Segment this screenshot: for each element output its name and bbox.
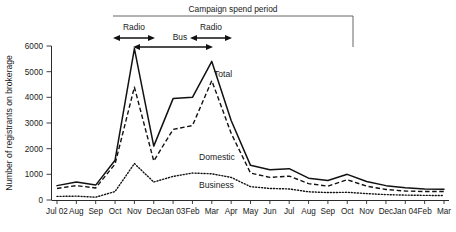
radio-1-arrow-head-right: [148, 35, 155, 41]
x-tick-label-2: Sep: [88, 207, 103, 216]
x-axis-ticks: [57, 200, 444, 204]
bus-arrow: [133, 44, 213, 50]
campaign-spend-annotation: Campaign spend period Radio Bus Radio: [113, 4, 353, 50]
series-label-business: Business: [199, 180, 234, 190]
x-tick-label-20: Mar: [437, 207, 451, 216]
bus-arrow-head-right: [206, 44, 213, 50]
series-line-business: [57, 164, 444, 198]
y-tick-label-5000: 5000: [25, 68, 44, 77]
x-axis: Jul 02AugSepOctNovDecJan 03FebMarAprMayJ…: [46, 200, 451, 216]
radio-2-arrow-head-right: [225, 35, 232, 41]
x-tick-label-9: Apr: [225, 207, 238, 216]
y-tick-label-4000: 4000: [25, 93, 44, 102]
y-tick-label-0: 0: [38, 196, 43, 205]
y-axis: 0 1000 2000 3000 4000 5000 6000 Number o…: [4, 42, 52, 205]
x-axis-tick-labels: Jul 02AugSepOctNovDecJan 03FebMarAprMayJ…: [46, 207, 451, 216]
y-tick-label-3000: 3000: [25, 119, 44, 128]
radio-2-arrow: [190, 35, 232, 41]
x-tick-label-11: Jun: [263, 207, 277, 216]
series-line-total: [57, 49, 444, 190]
x-tick-label-10: May: [243, 207, 259, 216]
annotation-label-radio-1: Radio: [123, 22, 145, 32]
x-tick-label-17: Dec: [379, 207, 394, 216]
chart-figure: 0 1000 2000 3000 4000 5000 6000 Number o…: [0, 0, 456, 232]
x-tick-label-13: Aug: [301, 207, 316, 216]
series-label-domestic: Domestic: [199, 152, 236, 162]
campaign-spend-bracket: [113, 16, 353, 47]
radio-1-arrow-head-left: [113, 35, 120, 41]
x-tick-label-12: Jul: [284, 207, 295, 216]
x-tick-label-15: Oct: [341, 207, 354, 216]
series-label-total: Total: [214, 69, 232, 79]
campaign-spend-title: Campaign spend period: [189, 4, 278, 14]
x-tick-label-18: Jan 04: [393, 207, 418, 216]
series-line-domestic: [57, 81, 444, 192]
y-tick-label-6000: 6000: [25, 42, 44, 51]
y-axis-ticks: [47, 46, 52, 200]
x-tick-label-3: Oct: [109, 207, 122, 216]
radio-1-arrow: [113, 35, 155, 41]
y-tick-label-1000: 1000: [25, 170, 44, 179]
annotation-label-radio-2: Radio: [200, 22, 222, 32]
x-tick-label-8: Mar: [205, 207, 219, 216]
x-tick-label-7: Feb: [185, 207, 200, 216]
x-tick-label-0: Jul 02: [46, 207, 68, 216]
x-tick-label-1: Aug: [69, 207, 84, 216]
y-tick-label-2000: 2000: [25, 145, 44, 154]
x-tick-label-19: Feb: [418, 207, 433, 216]
y-axis-title: Number of registrants on brokerage: [4, 55, 14, 191]
line-chart-svg: 0 1000 2000 3000 4000 5000 6000 Number o…: [0, 0, 456, 232]
x-tick-label-16: Nov: [359, 207, 374, 216]
annotation-label-bus: Bus: [173, 32, 187, 42]
radio-2-arrow-head-left: [190, 35, 197, 41]
x-tick-label-4: Nov: [127, 207, 142, 216]
x-tick-label-5: Dec: [146, 207, 161, 216]
x-tick-label-6: Jan 03: [161, 207, 186, 216]
x-tick-label-14: Sep: [321, 207, 336, 216]
data-series-group: [57, 49, 444, 198]
